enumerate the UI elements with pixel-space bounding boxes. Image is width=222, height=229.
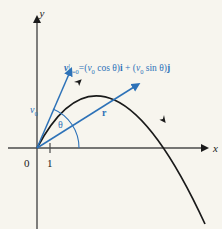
projectile-motion-figure: y x 0 1 v0 θ r v|t=0=(v0 cos θ)i + (v0 s… (0, 0, 222, 229)
x-axis-label: x (212, 142, 218, 154)
position-vector-label: r (102, 107, 107, 118)
equation-cos: cos (95, 63, 112, 73)
equation-sin: sin (143, 63, 159, 73)
x-tick-label-1: 1 (47, 157, 53, 169)
y-axis-label: y (39, 7, 45, 19)
initial-speed-subscript: 0 (34, 110, 37, 117)
velocity-equation: v|t=0=(v0 cos θ)i + (v0 sin θ)j (64, 63, 170, 75)
equation-plus: + (123, 63, 133, 73)
angle-label: θ (58, 119, 63, 130)
equation-j-hat: j (166, 63, 170, 73)
origin-label: 0 (24, 157, 30, 169)
figure-canvas: y x 0 1 v0 θ r v|t=0=(v0 cos θ)i + (v0 s… (0, 0, 222, 229)
